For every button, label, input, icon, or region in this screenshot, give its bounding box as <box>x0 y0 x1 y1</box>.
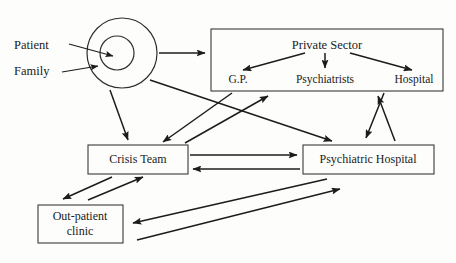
inner-circle <box>100 36 134 70</box>
private-child-gp[interactable]: G.P. <box>228 73 247 85</box>
out-patient-clinic-label-line1: Out-patient <box>53 209 108 223</box>
arrow-private-sector-to-crisis-team <box>163 93 232 142</box>
arrow-patient-to-core <box>69 44 113 56</box>
crisis-team-label: Crisis Team <box>109 152 167 166</box>
arrow-private-to-gp <box>243 53 305 70</box>
crisis-team-group[interactable]: Crisis Team <box>88 145 188 174</box>
private-child-hospital[interactable]: Hospital <box>395 73 434 86</box>
patient-label: Patient <box>14 38 49 52</box>
psychiatric-hospital-group[interactable]: Psychiatric Hospital <box>303 145 434 174</box>
outer-circle <box>87 18 157 88</box>
private-child-psychiatrists[interactable]: Psychiatrists <box>296 73 355 86</box>
arrow-crisis-team-to-out-patient-clinic <box>63 177 112 199</box>
psychiatric-hospital-label: Psychiatric Hospital <box>320 152 418 166</box>
family-label: Family <box>14 64 50 78</box>
out-patient-clinic-group[interactable]: Out-patient clinic <box>38 205 123 243</box>
private-sector-group[interactable]: Private Sector G.P. Psychiatrists Hospit… <box>211 29 443 91</box>
out-patient-clinic-label-line2: clinic <box>67 224 94 238</box>
diagram-svg: Patient Family Private Sector G.P. Psych… <box>0 0 456 263</box>
diagram-canvas: Patient Family Private Sector G.P. Psych… <box>0 0 456 263</box>
arrow-out-patient-clinic-to-crisis-team <box>88 177 143 200</box>
arrow-private-to-hospital <box>350 53 412 70</box>
private-sector-title: Private Sector <box>292 38 363 52</box>
arrow-core-to-crisis-team <box>110 90 128 140</box>
arrow-psychiatric-hospital-to-private-sector <box>378 96 395 141</box>
patient-family-core <box>87 18 157 88</box>
arrow-crisis-team-to-private-sector <box>185 96 268 143</box>
arrow-private-sector-to-psychiatric-hospital <box>366 93 384 138</box>
